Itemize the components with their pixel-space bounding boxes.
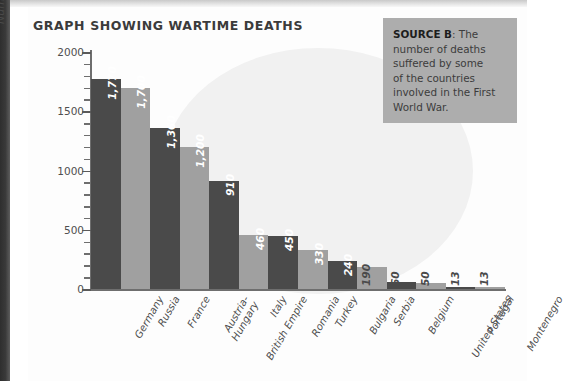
bar-value-label: 60 [389,271,401,286]
bar: 1,770 [91,79,121,289]
bar-value-label: 190 [360,264,372,286]
bar: 1,700 [121,88,151,289]
bar: 450 [268,236,298,289]
book-gutter-shadow [0,0,10,381]
bar: 910 [209,181,239,289]
x-tick-label: Italy [268,294,289,319]
bar-value-label: 50 [419,271,431,286]
x-tick-label: British Empire [264,294,310,362]
bar-value-label: 910 [224,174,236,196]
y-minor-tick [84,242,91,244]
y-minor-tick [84,206,91,208]
y-minor-tick [84,218,91,220]
y-major-tick [82,111,91,113]
x-tick-label: France [186,294,213,329]
page-top-edge [10,0,527,7]
y-minor-tick [84,159,91,161]
page-title: GRAPH SHOWING WARTIME DEATHS [33,18,303,33]
bar-value-label: 460 [254,227,266,249]
bar: 60 [387,282,417,289]
bar: 13 [446,287,476,289]
y-minor-tick [84,194,91,196]
bar: 50 [416,283,446,289]
bar: 460 [239,235,269,290]
x-tick-label: Austria-Hungary [220,294,261,343]
y-minor-tick [84,135,91,137]
y-major-tick [82,52,91,54]
bar: 330 [298,250,328,289]
bar-value-label: 1,700 [135,75,147,109]
y-major-tick [82,171,91,173]
x-axis-line [90,289,506,291]
y-minor-tick [84,253,91,255]
y-minor-tick [84,64,91,66]
bar: 240 [328,261,358,289]
y-minor-tick [84,182,91,184]
y-minor-tick [84,99,91,101]
page-left-margin [10,7,28,381]
bar-value-label: 240 [342,254,354,276]
x-tick-label: Belgium [426,294,456,336]
x-tick-label: Montenegro [524,294,564,353]
x-tick-label: Bulgaria [367,294,398,336]
y-axis-title: Numbers of deaths (in thousands) [0,0,7,50]
bar-value-label: 330 [313,243,325,265]
y-axis-labels: 2000150010005000 [36,52,84,289]
bar-value-label: 450 [283,229,295,251]
source-line-1-text: : The [452,28,478,40]
y-minor-tick [84,76,91,78]
source-line-1: SOURCE B: The [393,27,508,42]
bar-value-label: 13 [478,271,490,286]
bar: 190 [357,267,387,290]
bar-value-label: 1,200 [194,134,206,168]
y-minor-tick [84,147,91,149]
source-label: SOURCE B [393,28,452,40]
bar: 1,200 [180,147,210,289]
x-axis-labels: GermanyRussiaFranceAustria-HungaryBritis… [91,294,505,380]
bars-group: 1,7701,7001,3601,20091046045033024019060… [91,52,505,289]
y-tick-label: 2000 [57,46,84,58]
y-tick-label: 1000 [57,165,84,177]
y-tick-label: 1500 [57,105,84,117]
y-minor-tick [84,88,91,90]
y-minor-tick [84,265,91,267]
bar-value-label: 1,360 [165,115,177,149]
y-major-tick [82,289,91,291]
bar-value-label: 1,770 [106,67,118,101]
bar: 1,360 [150,128,180,289]
bar: 13 [475,287,505,289]
y-tick-label: 500 [64,224,84,236]
y-minor-tick [84,123,91,125]
bar-value-label: 13 [449,271,461,286]
y-minor-tick [84,277,91,279]
y-major-tick [82,230,91,232]
